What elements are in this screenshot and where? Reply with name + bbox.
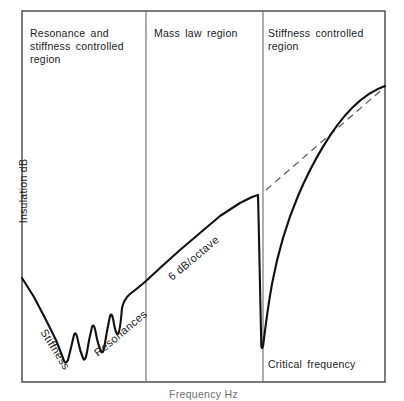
region-label-resonance-stiffness: Resonance and stiffness controlled regio… bbox=[30, 27, 142, 66]
annotation-critical-frequency: Critical frequency bbox=[268, 358, 356, 370]
region-label-stiffness-controlled: Stiffness controlled region bbox=[268, 27, 378, 53]
x-axis-label: Frequency Hz bbox=[22, 388, 385, 401]
insulation-frequency-figure: Insulation dB Stiffness Resonances 6 dB/… bbox=[0, 0, 404, 401]
region-label-mass-law: Mass law region bbox=[154, 27, 258, 40]
y-axis-label: Insulation dB bbox=[17, 131, 29, 251]
plot-frame bbox=[22, 11, 385, 382]
